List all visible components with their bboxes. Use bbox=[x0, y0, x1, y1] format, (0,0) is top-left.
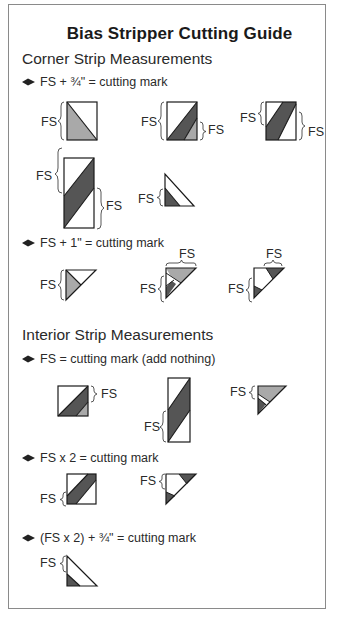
curly-brace-icon bbox=[249, 386, 255, 399]
rule-text: FS = cutting mark (add nothing) bbox=[40, 352, 215, 366]
curly-brace-icon bbox=[160, 411, 166, 442]
rule-interior-fs-times-two: FS x 2 = cutting mark bbox=[22, 451, 158, 465]
diamond-bullet-icon bbox=[22, 78, 35, 86]
section-heading-interior: Interior Strip Measurements bbox=[22, 326, 213, 344]
curly-brace-icon bbox=[159, 474, 165, 489]
curly-brace-icon bbox=[246, 278, 252, 302]
curly-brace-icon bbox=[97, 188, 104, 229]
rule-interior-add-nothing: FS = cutting mark (add nothing) bbox=[22, 352, 215, 366]
rule-interior-fs-times-two-plus-three-quarter: (FS x 2) + ¾" = cutting mark bbox=[22, 531, 196, 545]
curly-brace-icon bbox=[60, 492, 66, 506]
diamond-bullet-icon bbox=[22, 355, 35, 363]
rule-text: FS x 2 = cutting mark bbox=[40, 451, 158, 465]
section-heading-corner: Corner Strip Measurements bbox=[22, 50, 212, 68]
curly-brace-icon bbox=[258, 102, 264, 125]
curly-brace-icon bbox=[55, 148, 62, 193]
rule-text: FS + ¾" = cutting mark bbox=[40, 75, 167, 89]
diamond-bullet-icon bbox=[22, 454, 35, 462]
curly-brace-icon bbox=[60, 556, 66, 572]
rule-text: (FS x 2) + ¾" = cutting mark bbox=[40, 531, 196, 545]
curly-brace-icon bbox=[158, 276, 164, 302]
curly-brace-icon bbox=[158, 102, 164, 140]
curly-brace-icon bbox=[264, 260, 282, 266]
curly-brace-icon bbox=[91, 386, 97, 402]
diamond-bullet-icon bbox=[22, 239, 35, 247]
curly-brace-icon bbox=[200, 122, 206, 140]
curly-brace-icon bbox=[157, 189, 163, 206]
curly-brace-icon bbox=[299, 112, 305, 140]
curly-brace-icon bbox=[58, 102, 64, 140]
diamond-bullet-icon bbox=[22, 534, 35, 542]
curly-brace-icon bbox=[166, 260, 196, 266]
curly-brace-icon bbox=[58, 270, 64, 300]
page-title: Bias Stripper Cutting Guide bbox=[0, 24, 339, 44]
rule-corner-fs-plus-three-quarter: FS + ¾" = cutting mark bbox=[22, 75, 167, 89]
